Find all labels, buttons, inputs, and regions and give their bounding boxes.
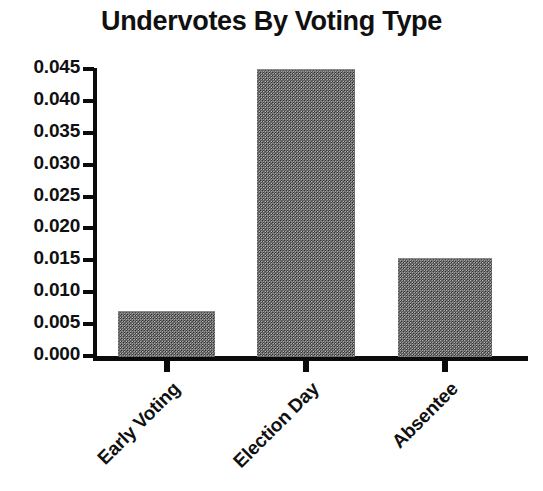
y-axis-tick — [83, 354, 94, 358]
y-axis-tick-label: 0.000 — [33, 343, 80, 365]
y-axis-tick — [83, 322, 94, 326]
bar — [257, 69, 355, 357]
y-axis-tick — [83, 163, 94, 167]
y-axis-tick — [83, 99, 94, 103]
chart-container: Undervotes By Voting Type 0.0000.0050.01… — [0, 0, 543, 491]
y-axis-tick-label: 0.020 — [33, 215, 80, 237]
y-axis-tick-label: 0.015 — [33, 247, 80, 269]
y-axis-tick-label: 0.040 — [33, 88, 80, 110]
y-axis-tick-label: 0.045 — [33, 56, 80, 78]
y-axis-line — [93, 68, 97, 360]
x-axis-category-label: Absentee — [355, 378, 462, 485]
y-axis-tick — [83, 67, 94, 71]
plot-area: 0.0000.0050.0100.0150.0200.0250.0300.035… — [0, 0, 543, 491]
x-axis-tick — [442, 360, 448, 372]
x-axis-category-label: Election Day — [216, 378, 323, 485]
bar — [398, 258, 492, 357]
y-axis-tick — [83, 195, 94, 199]
y-axis-tick — [83, 290, 94, 294]
x-axis-tick — [303, 360, 309, 372]
bar — [118, 311, 215, 357]
y-axis-tick-label: 0.010 — [33, 279, 80, 301]
y-axis-tick-label: 0.025 — [33, 184, 80, 206]
y-axis-tick — [83, 131, 94, 135]
y-axis-tick — [83, 258, 94, 262]
y-axis-tick-label: 0.035 — [33, 120, 80, 142]
y-axis-tick-label: 0.030 — [33, 152, 80, 174]
x-axis-category-label: Early Voting — [77, 378, 184, 485]
x-axis-tick — [164, 360, 170, 372]
y-axis-tick-label: 0.005 — [33, 311, 80, 333]
y-axis-tick — [83, 226, 94, 230]
